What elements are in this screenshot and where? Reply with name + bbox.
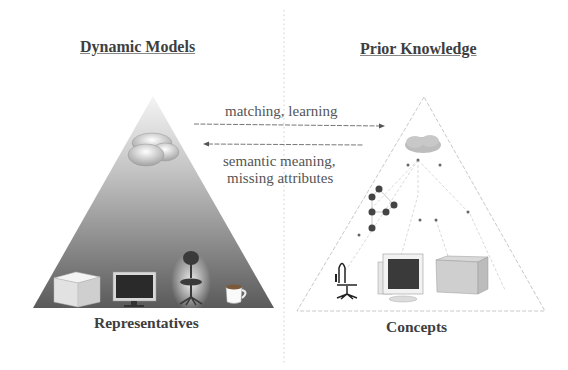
right-pyramid [297, 97, 545, 311]
right-title: Prior Knowledge [360, 40, 477, 58]
left-pyramid [33, 96, 274, 312]
forward-label: matching, learning [225, 103, 337, 120]
box-icon [436, 256, 488, 294]
forward-arrow [194, 124, 385, 129]
left-caption: Representatives [94, 314, 199, 332]
box-icon [54, 272, 100, 307]
left-title: Dynamic Models [80, 38, 195, 56]
crt-monitor-icon [378, 254, 423, 302]
right-caption: Concepts [386, 318, 447, 336]
backward-label-line2: missing attributes [227, 170, 333, 187]
cloud-icon [405, 135, 441, 153]
backward-label-line1: semantic meaning, [223, 153, 335, 170]
graph-nodes [369, 186, 398, 232]
